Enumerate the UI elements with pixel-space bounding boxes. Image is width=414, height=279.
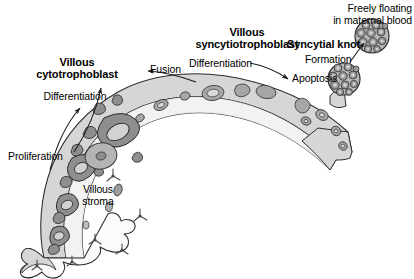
label-differentiation-left: Differentiation (32, 91, 118, 103)
stromal-cell (107, 169, 120, 181)
label-freely-floating-line1: Freely floating (274, 3, 412, 15)
villous-trophoblast-diagram: Villous cytotrophoblast Differentiation … (0, 0, 414, 279)
stromal-cell (134, 209, 147, 221)
label-villous-cytotrophoblast: Villous cytotrophoblast (22, 56, 132, 81)
label-villous-stroma: Villous stroma (70, 184, 126, 208)
label-differentiation-right: Differentiation (189, 58, 252, 70)
label-villous-cytotrophoblast-line1: Villous (22, 56, 132, 68)
label-formation: Formation (305, 54, 351, 66)
label-syncytial-knot: Syncytial knot (287, 38, 360, 50)
label-fusion: Fusion (150, 64, 181, 76)
label-freely-floating-line2: in maternal blood (274, 15, 412, 27)
label-villous-stroma-line2: stroma (70, 196, 126, 208)
stroma-nucleus (82, 221, 89, 230)
label-proliferation: Proliferation (8, 151, 63, 163)
label-villous-stroma-line1: Villous (70, 184, 126, 196)
syncytial-knot-attached (328, 63, 360, 108)
label-villous-syncytiotrophoblast-line1: Villous (182, 26, 312, 38)
label-villous-cytotrophoblast-line2: cytotrophoblast (22, 68, 132, 80)
arrow-differentiation-right (250, 63, 288, 79)
label-apoptosis: Apoptosis (292, 73, 337, 85)
label-freely-floating: Freely floating in maternal blood (274, 3, 412, 27)
